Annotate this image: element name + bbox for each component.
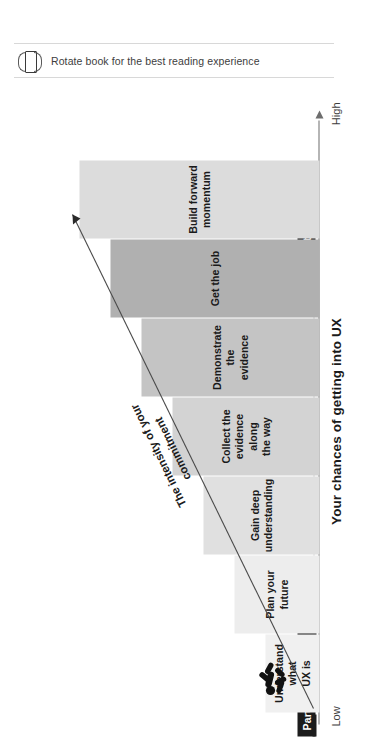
staircase-chart: Low High Your chances of getting into UX… — [0, 88, 367, 754]
step-label: Gain deepunderstanding — [248, 478, 274, 552]
step-box: Build forwardmomentum — [79, 160, 319, 238]
step-label-line: understanding — [261, 478, 274, 552]
step-label: Collect theevidence alongthe way — [219, 401, 272, 471]
step-label-line: the way — [259, 401, 272, 471]
step-box: Plan your future — [234, 555, 319, 633]
step-box: Get the job — [110, 239, 319, 317]
step-label-line: Demonstrate the — [210, 322, 236, 392]
rotate-book-icon — [18, 49, 42, 73]
step-label-line: Collect the — [219, 401, 232, 471]
step-label-line: UX is — [299, 638, 312, 708]
rotate-book-banner: Rotate book for the best reading experie… — [14, 43, 334, 78]
rotate-book-label: Rotate book for the best reading experie… — [51, 55, 260, 67]
step-label: Demonstrate theevidence — [210, 322, 250, 392]
diagram-viewport: Low High Your chances of getting into UX… — [0, 88, 367, 754]
step-label-line: Plan your future — [263, 559, 289, 629]
step-label-line: Get the job — [208, 250, 221, 305]
step-box: Gain deepunderstanding — [203, 476, 319, 554]
step-label-line: evidence along — [232, 401, 258, 471]
falling-person-icon — [250, 656, 296, 702]
axis-title: Your chances of getting into UX — [328, 88, 343, 754]
step-label-line: Build forward — [186, 165, 199, 233]
step-box: Demonstrate theevidence — [141, 318, 319, 396]
step-label-line: evidence — [237, 322, 250, 392]
step-label-line: momentum — [199, 165, 212, 233]
axis-arrow-icon — [315, 110, 323, 118]
step-box: Collect theevidence alongthe way — [172, 397, 319, 475]
step-label: Plan your future — [263, 559, 289, 629]
step-label: Build forwardmomentum — [186, 165, 212, 233]
step-label: Get the job — [208, 250, 221, 305]
step-label-line: Gain deep — [248, 478, 261, 552]
